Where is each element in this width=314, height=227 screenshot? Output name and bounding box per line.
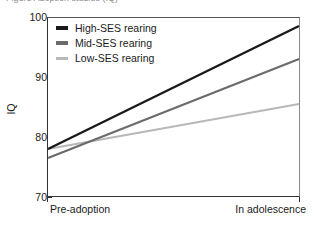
x-axis-label-pre-adoption: Pre-adoption <box>50 203 110 215</box>
y-tick-label-70: 70 <box>21 192 47 202</box>
legend-item-low-ses: Low-SES rearing <box>56 51 157 65</box>
legend-swatch-mid-ses <box>56 41 68 44</box>
y-tick-90: 90 <box>13 72 47 82</box>
legend-label-mid-ses: Mid-SES rearing <box>75 37 152 49</box>
legend-label-high-ses: High-SES rearing <box>75 22 157 34</box>
legend-label-low-ses: Low-SES rearing <box>75 52 154 64</box>
y-tick-70: 70 <box>13 192 47 202</box>
x-axis-label-in-adolescence: In adolescence <box>235 203 306 215</box>
legend-swatch-low-ses <box>56 57 68 60</box>
y-axis-title: IQ <box>5 92 17 126</box>
iq-adoption-line-chart: Figure Adoption studies (IQ) 100 90 80 7… <box>0 0 314 227</box>
x-tick-mark-in-adolescence <box>299 197 300 202</box>
figure-caption: Figure Adoption studies (IQ) <box>6 0 306 3</box>
x-tick-mark-pre-adoption <box>47 197 48 202</box>
y-tick-80: 80 <box>13 132 47 142</box>
y-tick-label-80: 80 <box>21 132 47 142</box>
legend-item-mid-ses: Mid-SES rearing <box>56 36 157 50</box>
y-tick-label-90: 90 <box>21 72 47 82</box>
legend-item-high-ses: High-SES rearing <box>56 21 157 35</box>
y-tick-100: 100 <box>13 12 47 22</box>
y-tick-label-100: 100 <box>21 12 47 22</box>
legend: High-SES rearing Mid-SES rearing Low-SES… <box>56 21 157 66</box>
legend-swatch-high-ses <box>56 26 68 29</box>
